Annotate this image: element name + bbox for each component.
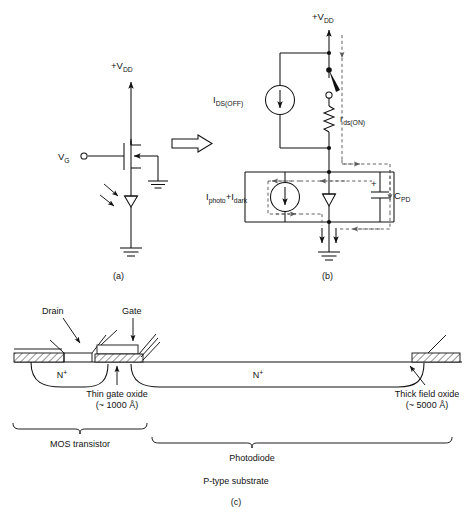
substrate-label: P-type substrate [203,476,269,486]
photodiode-brace [152,437,452,448]
n-plus-left-label: N+ [57,369,68,380]
panel-b-supply-label: +VDD [312,11,334,24]
panel-a-supply-label: +VDD [111,60,133,73]
gate-stack [95,330,160,362]
right-oxide-leader [428,335,446,353]
current-source-ids-off [266,86,295,115]
mos-transistor [88,141,158,172]
panel-a-body-ground [148,156,168,188]
capacitor-polarity-label: + [371,178,377,189]
mos-transistor-brace [13,423,147,434]
photo-dark-current-label: Iphoto+Idark [206,191,248,205]
n-plus-photodiode-region [131,363,424,387]
thin-gate-oxide-label-1: Thin gate oxide [86,389,148,399]
thick-field-oxide-label-2: (~ 5000 Å) [406,400,448,410]
drain-label: Drain [42,306,64,316]
panel-a-ground [120,248,142,256]
caption-c: (c) [231,497,242,507]
panel-a: +VDD [58,60,168,281]
cpd-label: CPD [394,190,410,203]
photodiode-symbol [125,190,138,248]
n-plus-drain-region [31,362,108,387]
photodiode-bracket-label: Photodiode [229,453,275,463]
panel-b-ground [318,222,340,260]
drain-leader [63,318,80,343]
panel-c: N+ N+ Drain Gate Thin gate oxide (~ 1000… [13,306,462,507]
panel-b: +VDD IDS(OFF) rds(ON) [206,11,410,281]
thin-gate-oxide-label-2: (~ 1000 Å) [96,400,138,410]
light-arrows-icon [100,184,118,206]
caption-a: (a) [113,271,124,281]
thick-field-oxide-label-1: Thick field oxide [395,389,460,399]
caption-b: (b) [322,271,333,281]
gate-label: Gate [122,306,142,316]
diode-symbol [323,172,336,222]
figure-root: +VDD [0,0,471,512]
right-field-oxide [412,353,460,362]
switch-symbol [326,67,340,98]
ids-off-label: IDS(OFF) [213,94,243,108]
panel-a-gate-label: VG [58,151,70,164]
current-source-photo [271,172,300,222]
diode-top-node [327,170,331,174]
equivalence-arrow-icon [172,135,212,152]
n-plus-right-label: N+ [253,369,264,380]
left-field-oxide [14,353,64,362]
mos-transistor-bracket-label: MOS transistor [50,439,110,449]
resistor-rds-on [324,98,334,148]
rds-on-label: rds(ON) [340,113,365,127]
gate-terminal-node [81,153,87,159]
figure-canvas: +VDD [0,0,471,512]
